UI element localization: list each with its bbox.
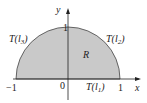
label-t-l1: T(l1)	[86, 81, 105, 94]
y-axis-label: y	[55, 4, 61, 15]
label-t-l2: T(l2)	[106, 33, 125, 46]
x-tick-1: 1	[118, 82, 123, 93]
y-axis-arrow-icon	[66, 8, 70, 14]
x-axis-arrow-icon	[135, 77, 141, 81]
x-axis-label: x	[134, 82, 140, 93]
half-disk-diagram: y x 1 −1 0 1 R T(l1) T(l2) T(l3)	[0, 0, 147, 103]
label-t-l3: T(l3)	[9, 33, 28, 46]
x-tick-0: 0	[60, 80, 65, 91]
y-tick-1: 1	[63, 22, 68, 33]
x-tick-neg1: −1	[6, 82, 17, 93]
region-label: R	[82, 49, 89, 60]
